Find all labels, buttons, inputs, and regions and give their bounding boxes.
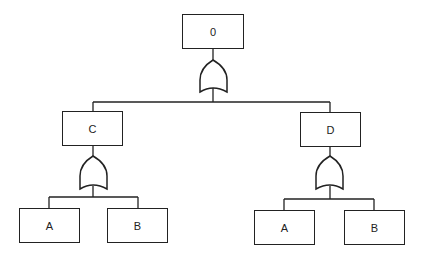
basic-event-box-left-b: B bbox=[107, 208, 168, 243]
basic-event-label-right-a: A bbox=[281, 222, 288, 234]
event-box-c: C bbox=[62, 111, 123, 146]
basic-event-label-left-b: B bbox=[134, 220, 141, 232]
fault-tree-diagram: 0 C D A B A B bbox=[0, 0, 423, 258]
basic-event-box-right-b: B bbox=[344, 210, 405, 245]
top-event-label: 0 bbox=[210, 26, 216, 38]
basic-event-label-right-b: B bbox=[371, 222, 378, 234]
event-label-c: C bbox=[89, 123, 97, 135]
basic-event-box-left-a: A bbox=[19, 208, 80, 243]
event-label-d: D bbox=[327, 124, 335, 136]
or-gate-icon-right bbox=[316, 156, 343, 189]
or-gate-icon-left bbox=[80, 156, 107, 189]
basic-event-label-left-a: A bbox=[46, 220, 53, 232]
basic-event-box-right-a: A bbox=[254, 210, 315, 245]
top-event-box: 0 bbox=[182, 14, 244, 49]
or-gate-icon-top bbox=[200, 60, 227, 92]
event-box-d: D bbox=[300, 112, 361, 147]
